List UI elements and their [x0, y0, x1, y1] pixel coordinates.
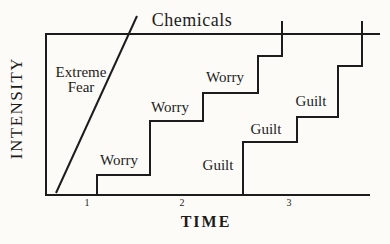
- x-tick-3: 3: [287, 198, 292, 209]
- series-worry: [97, 21, 282, 195]
- x-tick-1: 1: [85, 198, 90, 209]
- guilt-label-2: Guilt: [251, 122, 282, 138]
- y-axis-label: INTENSITY: [8, 57, 26, 159]
- extreme-fear-line-2: Fear: [56, 80, 107, 95]
- figure-canvas: Chemicals INTENSITY TIME Extreme Fear Wo…: [0, 0, 390, 244]
- extreme-fear-label: Extreme Fear: [56, 65, 107, 95]
- chart-title: Chemicals: [152, 11, 232, 30]
- x-tick-2: 2: [180, 198, 185, 209]
- worry-label-2: Worry: [151, 100, 189, 116]
- worry-label-1: Worry: [100, 153, 138, 169]
- x-axis-label: TIME: [181, 214, 232, 231]
- guilt-label-1: Guilt: [203, 158, 234, 174]
- guilt-label-3: Guilt: [296, 94, 327, 110]
- worry-label-3: Worry: [206, 70, 244, 86]
- extreme-fear-line-1: Extreme: [56, 65, 107, 80]
- plot-lines: [0, 0, 390, 244]
